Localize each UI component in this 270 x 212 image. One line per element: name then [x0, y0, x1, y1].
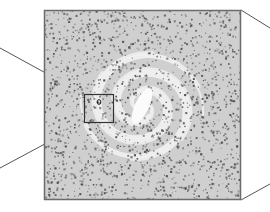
connector-line-right-bottom	[241, 184, 270, 200]
connector-line-right-top	[241, 10, 270, 28]
spiral-figure	[0, 0, 270, 212]
spiral-panel	[44, 10, 242, 202]
